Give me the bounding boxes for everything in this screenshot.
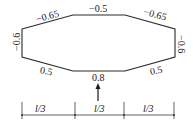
coef-bottom-left-slope: 0.5: [39, 64, 54, 77]
coef-top: −0.5: [89, 3, 107, 14]
coef-right: −0.6: [176, 35, 187, 53]
dim-label-3: l/3: [143, 103, 154, 114]
wind-load-diagram: −0.65 −0.5 −0.65 −0.6 −0.6 0.5 0.8 0.5 l…: [0, 0, 193, 127]
coef-top-right-slope: −0.65: [143, 6, 168, 23]
dim-label-1: l/3: [35, 103, 46, 114]
section-outline: [22, 15, 175, 71]
coef-bottom: 0.8: [92, 72, 105, 83]
coef-bottom-right-slope: 0.5: [149, 64, 164, 77]
coef-left: −0.6: [11, 33, 22, 51]
dim-label-2: l/3: [94, 103, 105, 114]
wind-arrow-icon: [96, 83, 101, 101]
